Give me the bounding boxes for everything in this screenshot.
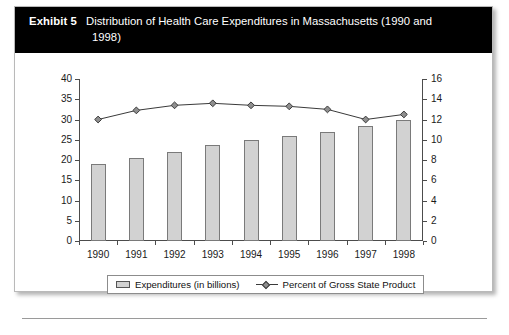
line-marker-1992 bbox=[171, 102, 178, 109]
x-axis-label-1995: 1995 bbox=[278, 250, 300, 260]
x-axis-tick bbox=[385, 241, 386, 245]
y-axis-left-tick-label: 0 bbox=[66, 236, 72, 246]
legend-entry-expenditures: Expenditures (in billions) bbox=[116, 279, 240, 290]
x-axis-label-1993: 1993 bbox=[202, 250, 224, 260]
exhibit-label: Exhibit 5 bbox=[29, 15, 77, 27]
x-axis-label-1990: 1990 bbox=[87, 250, 109, 260]
line-marker-1991 bbox=[133, 107, 140, 114]
legend-entry-percent-gsp: Percent of Gross State Product bbox=[256, 279, 416, 290]
x-axis-label-1991: 1991 bbox=[125, 250, 147, 260]
line-marker-1993 bbox=[209, 100, 216, 107]
y-axis-right-tick-label: 16 bbox=[431, 74, 442, 84]
line-marker-1995 bbox=[286, 103, 293, 110]
y-axis-left-tick-label: 15 bbox=[61, 175, 72, 185]
x-axis-tick bbox=[347, 241, 348, 245]
y-axis-left-tick-label: 40 bbox=[61, 74, 72, 84]
line-series-overlay bbox=[79, 79, 423, 241]
line-marker-1997 bbox=[362, 116, 369, 123]
y-axis-right-tick bbox=[423, 99, 427, 100]
y-axis-right-tick-label: 4 bbox=[431, 196, 437, 206]
chart-legend: Expenditures (in billions) Percent of Gr… bbox=[107, 275, 424, 294]
y-axis-right-tick bbox=[423, 221, 427, 222]
y-axis-right-tick-label: 2 bbox=[431, 216, 437, 226]
x-axis-tick bbox=[79, 241, 80, 245]
y-axis-right-tick bbox=[423, 79, 427, 80]
y-axis-left-tick-label: 5 bbox=[66, 216, 72, 226]
legend-label-percent-gsp: Percent of Gross State Product bbox=[283, 279, 416, 290]
line-diamond-swatch-icon bbox=[256, 280, 278, 289]
line-marker-1990 bbox=[95, 116, 102, 123]
plot-area: 4035302520151050 1614121086420 199019911… bbox=[79, 79, 423, 241]
x-axis-tick bbox=[117, 241, 118, 245]
line-marker-1998 bbox=[400, 111, 407, 118]
y-axis-right-tick bbox=[423, 201, 427, 202]
y-axis-right-tick-label: 14 bbox=[431, 94, 442, 104]
y-axis-left-tick-label: 20 bbox=[61, 155, 72, 165]
x-axis-tick bbox=[194, 241, 195, 245]
y-axis-right-tick bbox=[423, 120, 427, 121]
bar-swatch-icon bbox=[116, 281, 130, 288]
y-axis-right-tick-label: 12 bbox=[431, 115, 442, 125]
y-axis-right-tick-label: 0 bbox=[431, 236, 437, 246]
x-axis-tick bbox=[423, 241, 424, 245]
x-axis-label-1997: 1997 bbox=[355, 250, 377, 260]
y-axis-left-tick-label: 30 bbox=[61, 115, 72, 125]
chart-body: 4035302520151050 1614121086420 199019911… bbox=[15, 53, 492, 291]
page-rule bbox=[22, 318, 487, 319]
x-axis-tick bbox=[155, 241, 156, 245]
x-axis-tick bbox=[308, 241, 309, 245]
exhibit-header: Exhibit 5Distribution of Health Care Exp… bbox=[15, 7, 492, 53]
y-axis-right-tick-label: 10 bbox=[431, 135, 442, 145]
line-marker-1996 bbox=[324, 106, 331, 113]
exhibit-title-line1: Distribution of Health Care Expenditures… bbox=[86, 15, 432, 27]
y-axis-right-tick bbox=[423, 160, 427, 161]
x-axis-label-1998: 1998 bbox=[393, 250, 415, 260]
line-marker-1994 bbox=[248, 102, 255, 109]
exhibit-figure: Exhibit 5Distribution of Health Care Exp… bbox=[14, 6, 493, 292]
x-axis-label-1994: 1994 bbox=[240, 250, 262, 260]
exhibit-header-text: Exhibit 5Distribution of Health Care Exp… bbox=[29, 14, 478, 45]
x-axis-tick bbox=[232, 241, 233, 245]
y-axis-left-tick-label: 10 bbox=[61, 196, 72, 206]
y-axis-right-tick bbox=[423, 140, 427, 141]
exhibit-title-line2: 1998) bbox=[92, 30, 478, 46]
x-axis-tick bbox=[270, 241, 271, 245]
y-axis-right-tick bbox=[423, 180, 427, 181]
y-axis-right-tick-label: 8 bbox=[431, 155, 437, 165]
x-axis-label-1996: 1996 bbox=[316, 250, 338, 260]
x-axis-label-1992: 1992 bbox=[163, 250, 185, 260]
y-axis-left-tick-label: 35 bbox=[61, 94, 72, 104]
line-series-markers bbox=[95, 100, 408, 123]
legend-label-expenditures: Expenditures (in billions) bbox=[135, 279, 240, 290]
y-axis-right-tick-label: 6 bbox=[431, 175, 437, 185]
y-axis-left-tick-label: 25 bbox=[61, 135, 72, 145]
